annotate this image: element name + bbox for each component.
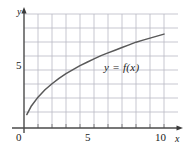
y-axis-arrow-icon (21, 7, 26, 14)
curve-annotation-label: y = f(x) (104, 62, 139, 73)
y-tick-label-5: 5 (16, 60, 22, 71)
function-graph-figure: y x 0 5 10 5 y = f(x) (0, 0, 189, 154)
grid-vertical-lines (38, 14, 164, 128)
x-tick-label-5: 5 (85, 132, 91, 143)
function-curve (27, 34, 164, 114)
x-tick-label-10: 10 (155, 132, 166, 143)
x-axis-arrow-icon (177, 125, 184, 130)
y-axis-label: y (17, 7, 21, 17)
grid-horizontal-lines (24, 14, 178, 112)
x-tick-label-0: 0 (16, 132, 22, 143)
x-axis-label: x (175, 134, 179, 144)
